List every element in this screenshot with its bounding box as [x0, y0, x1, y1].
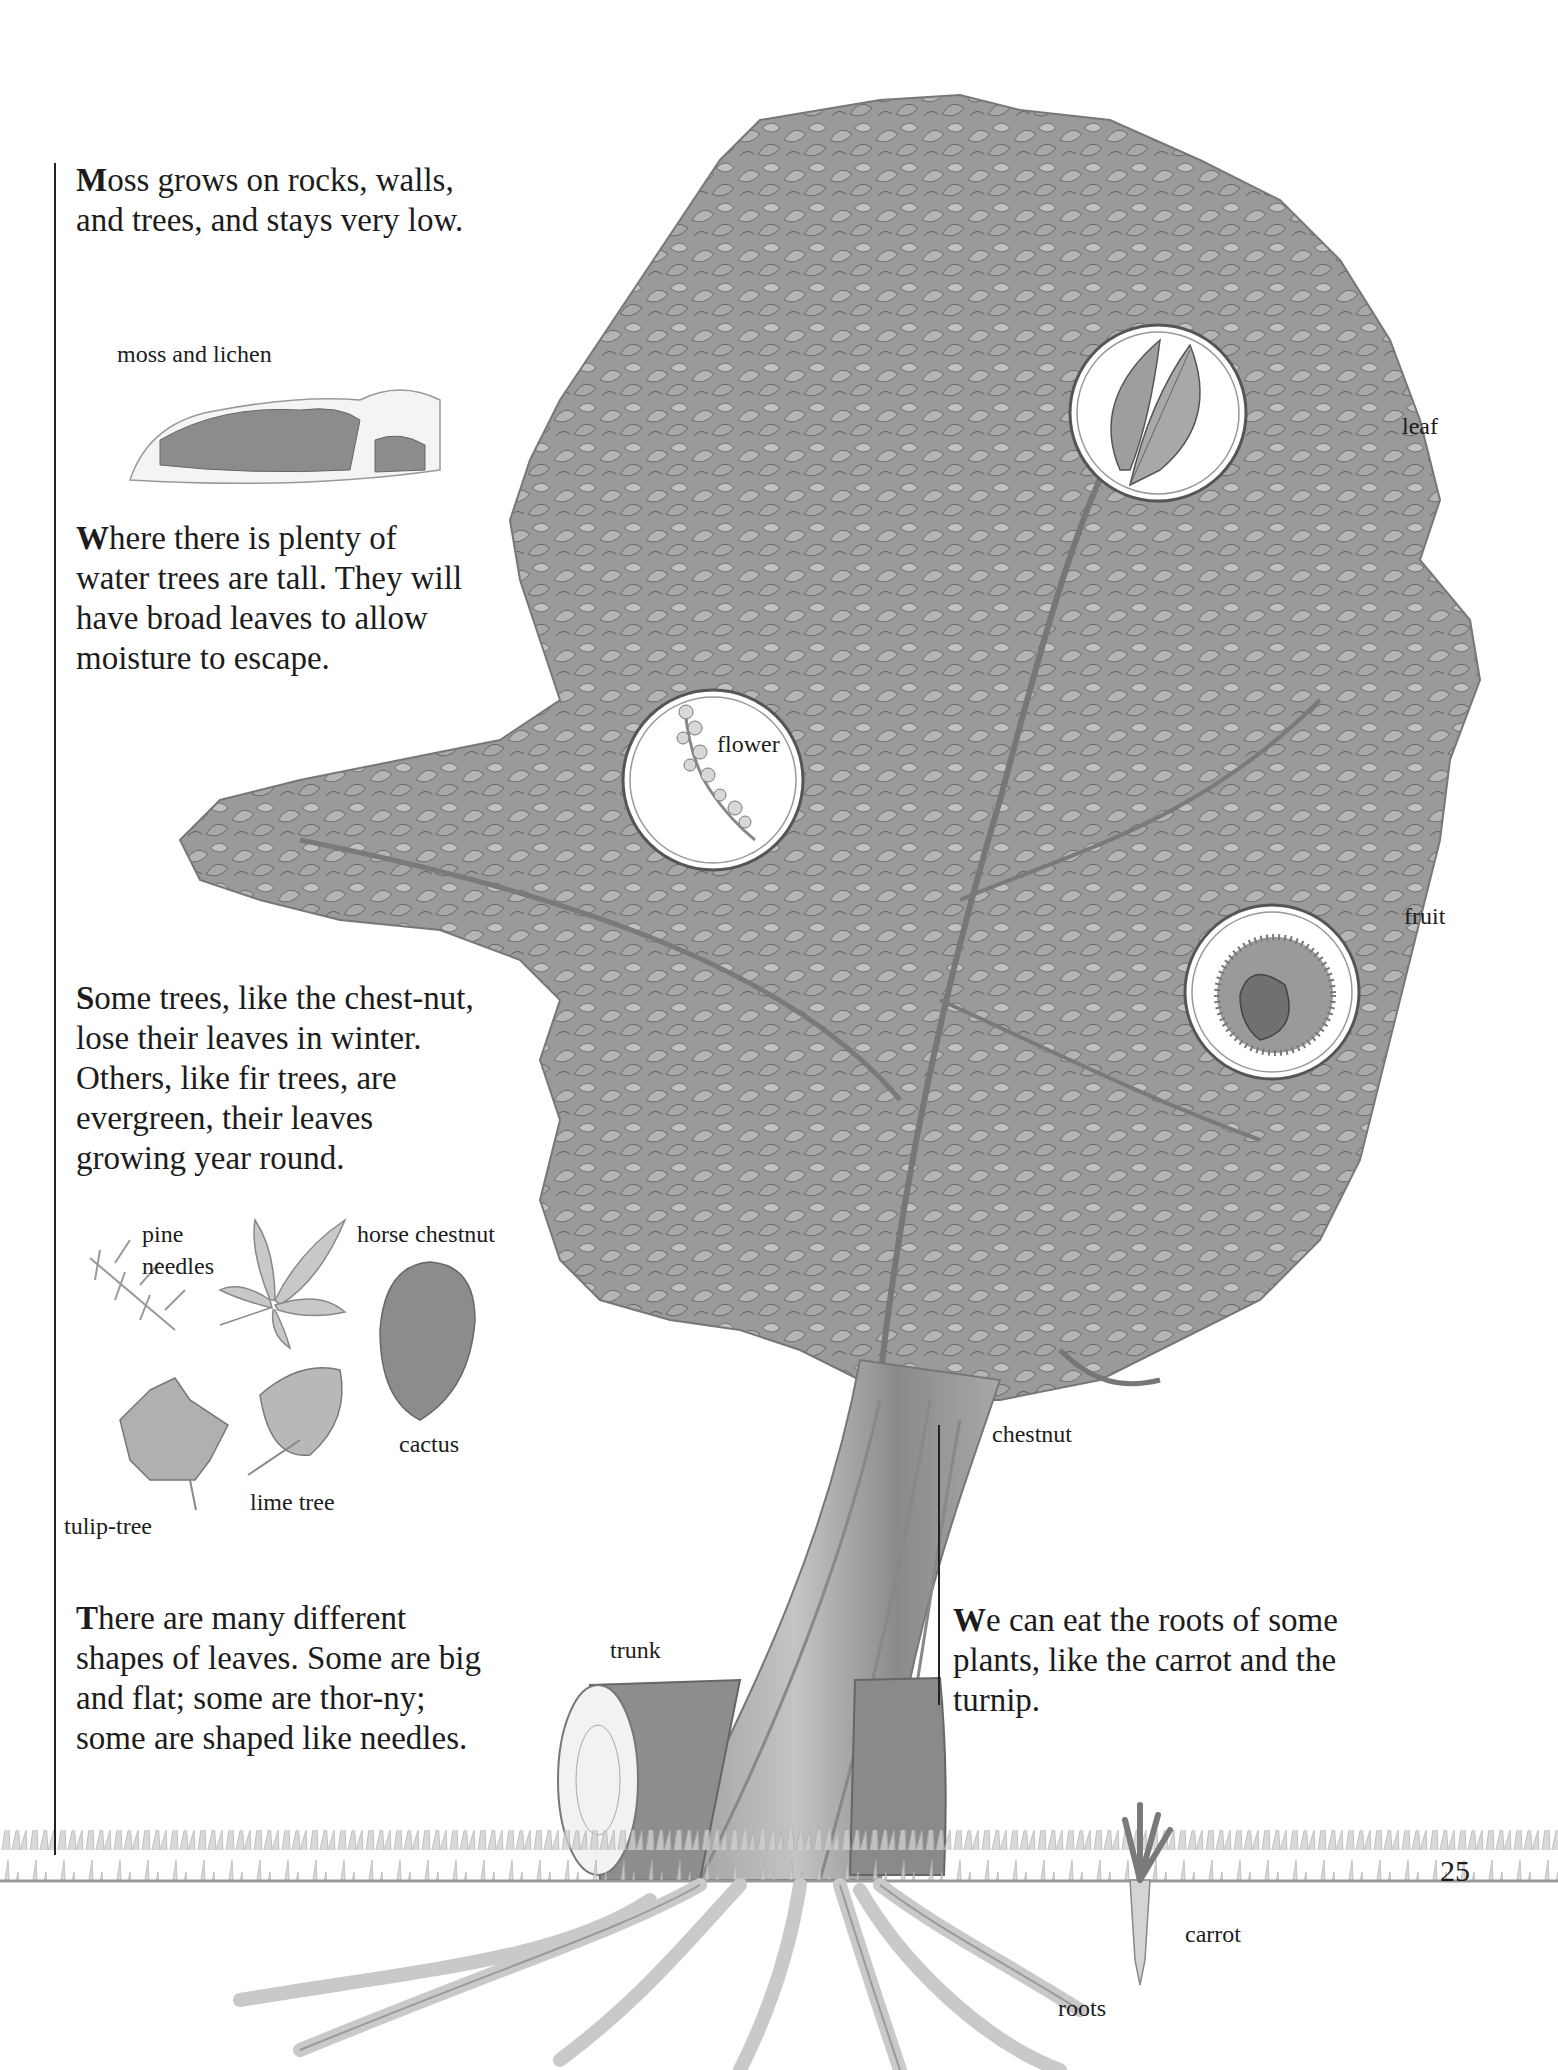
- flower-inset-circle: [623, 690, 803, 870]
- label-tulip-tree: tulip-tree: [64, 1512, 152, 1540]
- cactus-pad-illustration: [380, 1262, 475, 1420]
- tulip-tree-leaf-illustration: [120, 1378, 228, 1510]
- lime-tree-leaf-illustration: [248, 1368, 342, 1475]
- label-carrot: carrot: [1185, 1920, 1241, 1948]
- label-flower: flower: [717, 730, 780, 758]
- drop-cap: M: [76, 162, 107, 198]
- label-roots: roots: [1058, 1994, 1106, 2022]
- label-trunk: trunk: [610, 1636, 661, 1664]
- label-horse-chestnut: horse chestnut: [357, 1220, 495, 1248]
- roots-illustration: [240, 1885, 1080, 2070]
- page-number: 25: [1440, 1854, 1470, 1888]
- drop-cap: W: [953, 1602, 986, 1638]
- fruit-inset-circle: [1185, 905, 1359, 1079]
- drop-cap: S: [76, 980, 94, 1016]
- horse-chestnut-leaf-illustration: [220, 1220, 345, 1348]
- left-column-rule: [54, 163, 56, 1855]
- tree-canopy: [180, 95, 1480, 1400]
- paragraph-moss: Moss grows on rocks, walls, and trees, a…: [76, 160, 496, 240]
- drop-cap: T: [76, 1600, 98, 1636]
- grass: [0, 1830, 1558, 1882]
- label-moss-and-lichen: moss and lichen: [117, 340, 272, 368]
- label-fruit: fruit: [1404, 902, 1445, 930]
- drop-cap: W: [76, 520, 109, 556]
- paragraph-edible-roots: We can eat the roots of some plants, lik…: [953, 1600, 1353, 1720]
- label-lime-tree: lime tree: [250, 1488, 335, 1516]
- right-column-rule: [938, 1425, 940, 1705]
- label-needles: needles: [142, 1252, 214, 1280]
- label-pine: pine: [142, 1220, 183, 1248]
- label-chestnut: chestnut: [992, 1420, 1072, 1448]
- moss-and-lichen-illustration: [130, 390, 440, 483]
- paragraph-water-trees: Where there is plenty of water trees are…: [76, 518, 476, 678]
- label-cactus: cactus: [399, 1430, 459, 1458]
- leaf-inset-circle: [1070, 325, 1246, 501]
- label-leaf: leaf: [1402, 412, 1438, 440]
- paragraph-leaf-shapes: There are many different shapes of leave…: [76, 1598, 496, 1758]
- paragraph-deciduous-evergreen: Some trees, like the chest-nut, lose the…: [76, 978, 476, 1178]
